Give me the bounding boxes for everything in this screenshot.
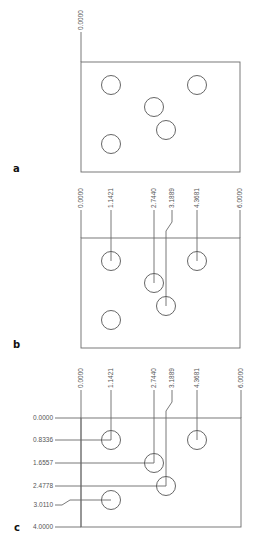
x-dim-label: 4.3681 <box>193 188 200 208</box>
y-dim-label: 4.0000 <box>33 523 53 530</box>
x-dim-label: 1.1421 <box>107 368 114 388</box>
hole-2 <box>188 76 207 95</box>
x-dim-label: 6.0000 <box>237 368 244 388</box>
y-dim-label: 0.8336 <box>33 436 53 443</box>
y-dim-label: 0.0000 <box>33 414 53 421</box>
x-dim-label: 6.0000 <box>236 188 243 208</box>
plate-outline <box>81 238 240 348</box>
x-dim-label: 3.1889 <box>168 368 175 388</box>
panel-label-b: b <box>13 339 20 350</box>
hole-5 <box>102 135 121 154</box>
x-dim-label: 2.7440 <box>150 188 157 208</box>
x-dim-label: 0.0000 <box>77 188 84 208</box>
hole-5 <box>102 311 121 330</box>
hole-3 <box>145 98 164 117</box>
x-dim-label: 1.1421 <box>107 188 114 208</box>
panel-label-a: a <box>13 163 20 174</box>
x-dim-label: 4.3681 <box>193 368 200 388</box>
x-extension-3-jogged <box>166 210 172 306</box>
hole-1 <box>102 76 121 95</box>
y-dim-label: 1.6557 <box>33 459 53 466</box>
panel-label-c: c <box>14 522 20 533</box>
x-dim-label: 3.1889 <box>168 188 175 208</box>
plate-outline <box>81 418 241 527</box>
panel-a: 0.0000 a <box>13 10 240 174</box>
x-dim-label: 0.0000 <box>77 368 84 388</box>
panel-c: 0.0000 1.1421 2.7440 3.1889 4.3681 6.000… <box>14 368 244 533</box>
x-extension-3-jogged <box>166 390 172 486</box>
y-dim-label: 3.0110 <box>34 501 54 508</box>
plate-outline <box>81 62 240 172</box>
ordinate-dimension-diagram: 0.0000 a 0.0000 1.1421 2.7440 3.1889 4.3… <box>0 0 254 545</box>
y-dim-label: 2.4778 <box>33 482 53 489</box>
x-dim-label: 0.0000 <box>77 10 84 30</box>
panel-b: 0.0000 1.1421 2.7440 3.1889 4.3681 6.000… <box>13 188 243 350</box>
x-dim-label: 2.7440 <box>150 368 157 388</box>
hole-4 <box>157 121 176 140</box>
